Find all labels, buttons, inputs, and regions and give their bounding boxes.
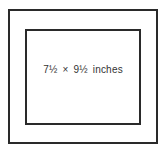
inner-frame (25, 29, 141, 125)
dimension-label: 7½ × 9½ inches (25, 64, 141, 75)
